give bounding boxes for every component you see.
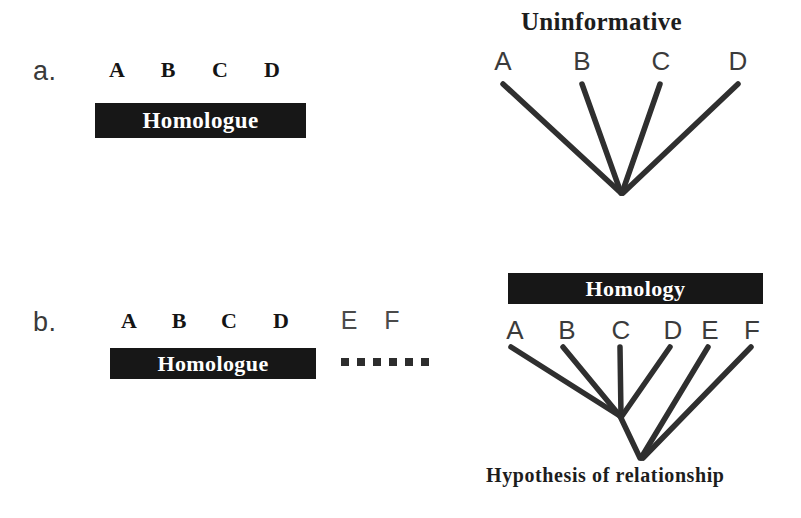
panel-a-taxon-a: A [106,59,128,81]
hypothesis-of-relationship-caption: Hypothesis of relationship [486,465,725,485]
panel-b-taxon-c: C [218,310,240,332]
tree-b-branch-d [622,347,670,416]
dot [389,358,397,366]
panel-b-taxon-e: E [338,308,360,333]
panel-a-homologue-bar: Homologue [95,103,306,138]
panel-b-homology-bar-label: Homology [586,278,686,300]
panel-a-letter: a. [33,58,57,85]
homology-tree [480,335,790,470]
uninformative-tree [470,70,790,210]
tree-b-branch-a [511,347,620,416]
panel-b-taxon-a: A [118,310,140,332]
panel-a-taxon-c: C [209,59,231,81]
panel-b-taxon-f: F [381,308,403,333]
tree-b-branches [511,347,751,458]
dot [373,358,381,366]
panel-a-homologue-bar-label: Homologue [142,109,258,132]
tree-a-branches [503,84,738,193]
panel-b-taxon-b: B [168,310,190,332]
tree-b-internal-stem [620,416,640,458]
dot [405,358,413,366]
panel-a-taxon-d: D [261,59,283,81]
panel-b-taxon-d: D [270,310,292,332]
dot [421,358,429,366]
tree-b-branch-c [620,347,621,416]
panel-b-letter: b. [33,309,57,336]
panel-b-homologue-bar: Homologue [110,348,316,379]
panel-b-homology-bar: Homology [508,273,763,304]
dot [341,358,349,366]
dot [357,358,365,366]
panel-b-dotted-extension [341,358,429,366]
panel-a-taxon-b: B [157,59,179,81]
figure-canvas: a. A B C D Homologue Uninformative A B C… [0,0,801,518]
tree-b-branch-b [563,347,620,416]
uninformative-title: Uninformative [521,9,682,34]
panel-b-homologue-bar-label: Homologue [157,353,268,375]
